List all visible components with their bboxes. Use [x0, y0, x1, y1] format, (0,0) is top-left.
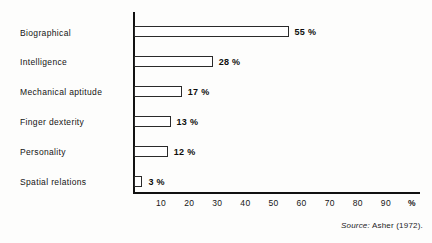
category-label-spatial-relations: Spatial relations: [20, 178, 86, 187]
category-label-mechanical-aptitude: Mechanical aptitude: [20, 88, 102, 97]
x-tick-60: 60: [297, 199, 307, 208]
x-tick-90: 90: [381, 199, 391, 208]
x-tick-20: 20: [184, 199, 194, 208]
bar-spatial-relations: [134, 176, 142, 187]
bar-value-intelligence: 28 %: [219, 58, 241, 67]
chart-figure: Biographical Intelligence Mechanical apt…: [0, 0, 432, 243]
x-tick-70: 70: [325, 199, 335, 208]
category-label-biographical: Biographical: [20, 29, 71, 38]
x-axis-line: [133, 192, 420, 194]
plot-area: 55 % 28 % 17 % 13 % 12 % 3 % 10 20 30 40…: [133, 12, 423, 192]
bar-personality: [134, 146, 168, 157]
bar-value-finger-dexterity: 13 %: [177, 118, 199, 127]
bar-value-spatial-relations: 3 %: [148, 178, 164, 187]
bar-value-mechanical-aptitude: 17 %: [188, 88, 210, 97]
x-tick-80: 80: [353, 199, 363, 208]
x-tick-10: 10: [156, 199, 166, 208]
category-label-finger-dexterity: Finger dexterity: [20, 118, 84, 127]
source-note-lead: Source:: [341, 221, 370, 230]
x-tick-50: 50: [268, 199, 278, 208]
bar-intelligence: [134, 56, 213, 67]
x-axis-unit-label: %: [408, 199, 416, 208]
category-label-intelligence: Intelligence: [20, 58, 67, 67]
category-label-personality: Personality: [20, 148, 66, 157]
bar-biographical: [134, 26, 289, 37]
bar-value-personality: 12 %: [174, 148, 196, 157]
bar-mechanical-aptitude: [134, 86, 182, 97]
x-tick-30: 30: [212, 199, 222, 208]
y-axis-line: [133, 12, 135, 192]
bar-value-biographical: 55 %: [295, 28, 317, 37]
source-note: Source: Asher (1972).: [341, 222, 423, 230]
x-tick-40: 40: [240, 199, 250, 208]
bar-finger-dexterity: [134, 116, 171, 127]
source-note-text: Asher (1972).: [372, 221, 423, 230]
